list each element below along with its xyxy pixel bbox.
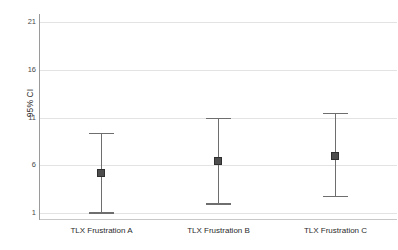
y-axis-tick-label: 1	[14, 209, 36, 217]
error-bar[interactable]	[306, 14, 366, 219]
x-axis-tick-label: TLX Frustration C	[266, 226, 398, 235]
mean-marker[interactable]	[214, 157, 222, 165]
mean-marker[interactable]	[331, 152, 339, 160]
y-axis-line	[39, 14, 40, 220]
error-bar-chart: 95% CI 16111621 TLX Frustration ATLX Fru…	[0, 0, 398, 250]
error-bar[interactable]	[72, 14, 132, 219]
error-bar-upper-cap	[89, 133, 114, 135]
y-axis-tick-label: 21	[14, 18, 36, 26]
mean-marker[interactable]	[97, 169, 105, 177]
x-axis-line	[40, 219, 397, 220]
y-axis-tick-label: 6	[14, 161, 36, 169]
error-bar-lower-cap	[323, 196, 348, 198]
error-bar-lower-cap	[206, 203, 231, 205]
error-bar-upper-cap	[206, 118, 231, 120]
error-bar[interactable]	[189, 14, 249, 219]
y-axis-tick-label: 11	[14, 114, 36, 122]
x-axis-tick-labels: TLX Frustration ATLX Frustration BTLX Fr…	[40, 226, 397, 242]
plot-area	[40, 14, 397, 219]
error-bar-upper-cap	[323, 113, 348, 115]
error-bar-lower-cap	[89, 212, 114, 214]
y-axis-tick-labels: 16111621	[14, 0, 36, 250]
y-axis-tick-label: 16	[14, 66, 36, 74]
